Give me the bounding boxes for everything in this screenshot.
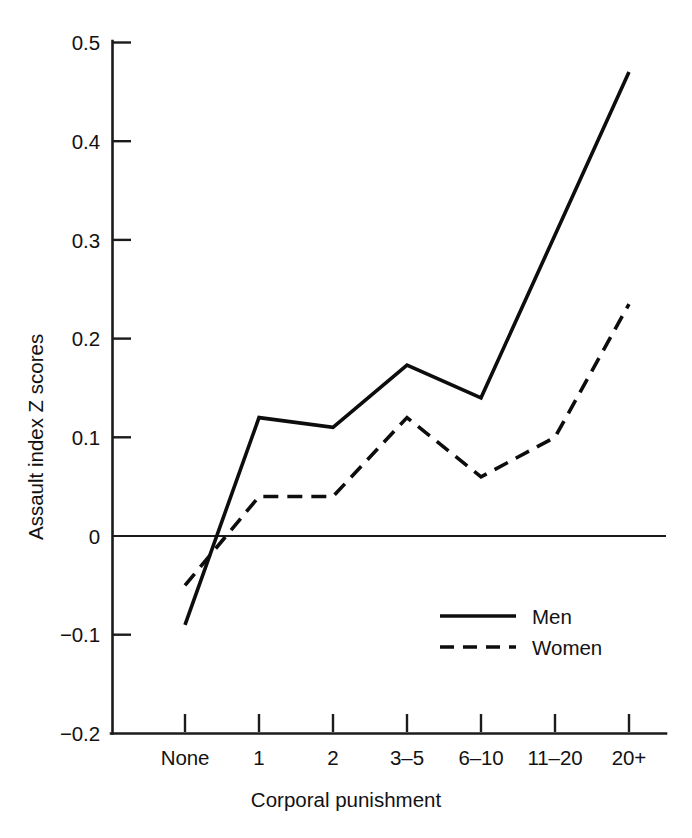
y-tick-label-neg0.2: −0.2: [30, 722, 100, 746]
y-axis-title: Assault index Z scores: [24, 334, 48, 540]
y-tick-label-neg0.1: −0.1: [30, 623, 100, 647]
y-tick-label-0.3: 0.3: [34, 229, 100, 253]
legend-label-men: Men: [532, 605, 572, 629]
y-tick-label-0.4: 0.4: [34, 130, 100, 154]
x-axis-ticks: [185, 714, 629, 732]
y-tick-label-0.5: 0.5: [34, 31, 100, 55]
series-line-men: [185, 72, 629, 625]
y-axis-ticks: [113, 43, 131, 635]
legend-label-women: Women: [532, 636, 602, 660]
x-axis-title: Corporal punishment: [0, 788, 692, 812]
plot-canvas: [0, 0, 692, 838]
x-tick-label-20plus: 20+: [579, 746, 679, 770]
series-line-women: [185, 304, 629, 585]
chart-figure: 0.5 0.4 0.3 0.2 0.1 0 −0.1 −0.2 None 1 2…: [0, 0, 692, 838]
